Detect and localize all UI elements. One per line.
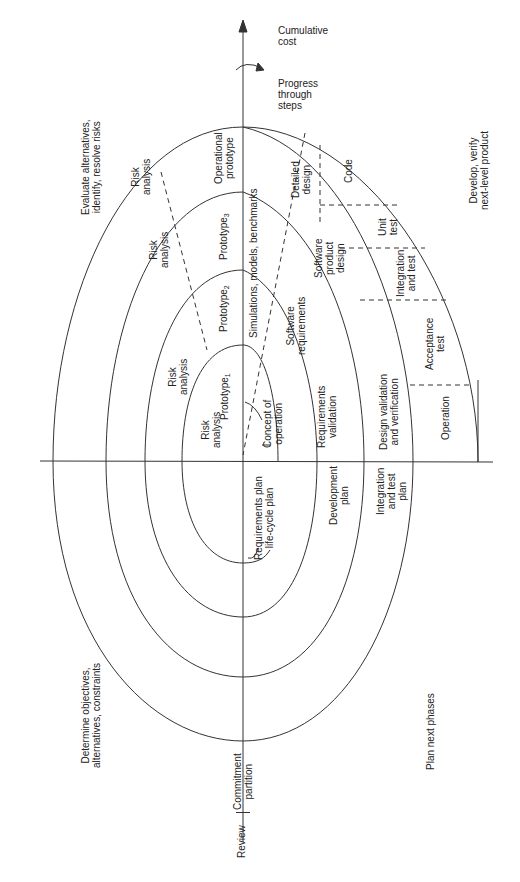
prototype-3: Prototype3 (218, 213, 232, 260)
integration-test-plan: Integration and test plan (375, 468, 408, 515)
cumulative-cost-label: Cumulative cost (278, 25, 328, 47)
simulations-label: Simulations, models, benchmarks (248, 188, 259, 338)
operation-label: Operation (440, 396, 451, 440)
requirements-plan: Requirements plan life-cycle plan (253, 476, 275, 560)
operational-prototype: Operational prototype (213, 132, 235, 184)
concept-of-operation: Concept of operation (262, 400, 284, 448)
design-validation: Design validation and verification (378, 374, 400, 450)
unit-test: Unit test (377, 218, 399, 236)
axis-arrow-icon (239, 20, 247, 32)
review-label: Review (236, 825, 247, 858)
progress-label: Progress through steps (278, 78, 318, 111)
software-product-design: Software product design (313, 239, 346, 278)
detailed-design: Detailed design (290, 161, 312, 198)
risk-analysis-2: Risk analysis (167, 359, 189, 395)
prototype-1: Prototype1 (219, 373, 233, 420)
acceptance-test: Acceptance test (424, 318, 446, 370)
spiral-model-diagram (0, 0, 520, 882)
requirements-validation: Requirements validation (316, 386, 338, 448)
develop-quadrant-label: Develop, verify next-level product (468, 131, 490, 210)
commitment-divider (236, 812, 250, 813)
evaluate-quadrant-label: Evaluate alternatives, identify, resolve… (80, 119, 102, 215)
risk-analysis-4: Risk analysis (130, 159, 152, 195)
code-label: Code (343, 159, 354, 183)
risk-analysis-3: Risk analysis (148, 232, 170, 268)
plan-quadrant-label: Plan next phases (425, 693, 436, 770)
horizontal-axis (40, 461, 493, 462)
software-requirements: Software requirements (285, 297, 307, 355)
commitment-partition-label: Commitment partition (232, 753, 254, 810)
prototype-2: Prototype2 (218, 285, 232, 332)
integration-and-test: Integration and test (395, 250, 417, 297)
determine-quadrant-label: Determine objectives, alternatives, cons… (80, 663, 102, 768)
development-plan: Development plan (328, 466, 350, 525)
